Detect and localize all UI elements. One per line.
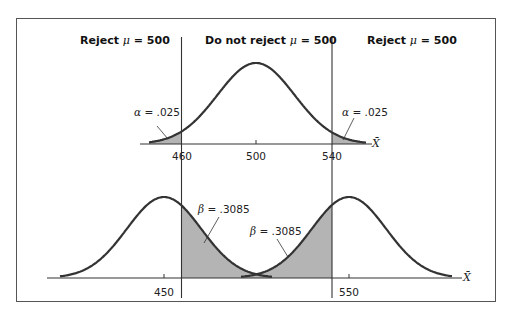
beta-value: = .3085 xyxy=(207,203,249,215)
tick-label-550: 550 xyxy=(339,286,359,298)
tick-label-540: 540 xyxy=(322,150,342,162)
alpha-right-leader xyxy=(343,118,354,140)
region-text: Do not reject xyxy=(205,34,286,47)
beta-symbol: β xyxy=(198,203,204,215)
tick-label-500: 500 xyxy=(246,150,266,162)
hypothesis-test-figure: Reject μ = 500 Do not reject μ = 500 Rej… xyxy=(0,0,510,325)
alpha-symbol: α xyxy=(342,106,349,118)
region-value: = 500 xyxy=(134,34,170,47)
region-value: = 500 xyxy=(421,34,457,47)
region-label-reject-right: Reject μ = 500 xyxy=(367,34,457,47)
top-axis-label: X̄ xyxy=(372,137,380,150)
region-label-reject-left: Reject μ = 500 xyxy=(80,34,170,47)
bottom-axis-label: X̄ xyxy=(463,271,471,284)
region-text: Reject xyxy=(80,34,119,47)
mu-symbol: μ xyxy=(410,34,417,47)
alpha-value: = .025 xyxy=(144,106,180,118)
curves-svg xyxy=(0,0,510,325)
tick-label-450: 450 xyxy=(154,286,174,298)
alpha-symbol: α xyxy=(134,106,141,118)
mu-symbol: μ xyxy=(123,34,130,47)
alpha-left-label: α = .025 xyxy=(134,106,180,118)
tick-label-460: 460 xyxy=(172,150,192,162)
alpha-left-leader xyxy=(157,126,168,139)
beta-right-shade xyxy=(241,205,332,278)
beta-right-leader xyxy=(277,239,288,257)
region-text: Reject xyxy=(367,34,406,47)
beta-symbol: β xyxy=(250,225,256,237)
mu-symbol: μ xyxy=(290,34,297,47)
region-label-do-not-reject: Do not reject μ = 500 xyxy=(205,34,337,47)
alpha-right-label: α = .025 xyxy=(342,106,388,118)
beta-left-label: β = .3085 xyxy=(198,203,250,215)
beta-left-leader xyxy=(204,217,219,243)
beta-left-shade xyxy=(182,206,273,279)
beta-value: = .3085 xyxy=(259,225,301,237)
beta-right-label: β = .3085 xyxy=(250,225,302,237)
alpha-value: = .025 xyxy=(352,106,388,118)
region-value: = 500 xyxy=(301,34,337,47)
